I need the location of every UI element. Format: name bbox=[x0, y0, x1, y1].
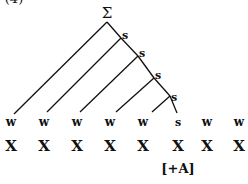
terminal-label: w bbox=[138, 116, 148, 128]
segment-x: X bbox=[71, 139, 83, 154]
segment-x: X bbox=[137, 139, 149, 154]
terminal-label: w bbox=[39, 116, 49, 128]
feature-label: [+A] bbox=[161, 162, 194, 175]
strong-node-1: s bbox=[122, 30, 128, 41]
strong-node-4: s bbox=[171, 92, 177, 103]
terminal-label-strong: s bbox=[175, 117, 181, 128]
strong-node-3: s bbox=[155, 70, 161, 81]
strong-node-2: s bbox=[139, 48, 145, 59]
terminal-label: w bbox=[202, 116, 212, 128]
example-number: (4) bbox=[5, 0, 23, 5]
segment-x: X bbox=[5, 139, 17, 154]
terminal-label: w bbox=[234, 116, 244, 128]
segment-x: X bbox=[38, 139, 50, 154]
segment-x: X bbox=[172, 139, 184, 154]
segment-x: X bbox=[201, 139, 213, 154]
segment-x: X bbox=[104, 139, 116, 154]
terminal-label: w bbox=[72, 116, 82, 128]
root-node-sigma: Σ bbox=[102, 6, 113, 21]
terminal-label: w bbox=[105, 116, 115, 128]
segment-x: X bbox=[233, 139, 245, 154]
terminal-label: w bbox=[6, 116, 16, 128]
